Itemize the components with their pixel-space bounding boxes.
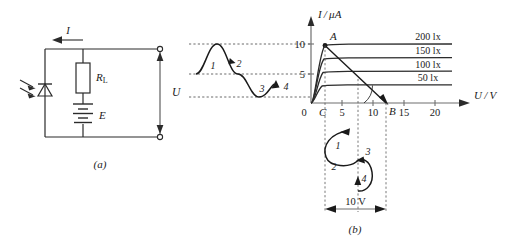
projection-lines	[325, 46, 386, 213]
x-axis-label: U / V	[474, 89, 497, 101]
curve-label-50lx: 50 lx	[418, 72, 438, 83]
input-wave-label-2: 2	[237, 58, 242, 69]
x-axis-arrowhead	[459, 99, 470, 107]
curve-label-150lx: 150 lx	[415, 45, 440, 56]
figure-photodiode-circuit-and-characteristics: I RL E	[0, 0, 505, 243]
caption-panel-b: (b)	[349, 223, 362, 236]
curve-label-100lx: 100 lx	[415, 59, 440, 70]
load-resistor-label: RL	[95, 71, 108, 85]
current-arrow-icon	[52, 36, 83, 44]
battery-label: E	[98, 109, 106, 121]
load-line	[325, 46, 389, 106]
y-tick-label-10: 10	[295, 39, 306, 50]
load-resistor-icon	[76, 63, 90, 93]
x-tick-label-10: 10	[368, 107, 379, 118]
terminal-bottom	[157, 134, 162, 139]
point-b-label: B	[389, 105, 396, 117]
point-a-label: A	[329, 30, 337, 42]
output-wave-label-1: 1	[336, 140, 341, 151]
battery-icon	[73, 104, 93, 123]
y-axis-arrowhead	[308, 16, 315, 26]
photodiode-icon	[20, 80, 52, 99]
panel-a-circuit: I RL E	[20, 25, 181, 171]
y-tick-label-5: 5	[300, 69, 305, 80]
point-c-label: C	[319, 106, 327, 118]
curve-50lx	[311, 85, 452, 103]
x-tick-label-15: 15	[399, 107, 410, 118]
input-sine-wave	[196, 44, 280, 97]
terminal-top	[157, 46, 162, 51]
current-label: I	[65, 25, 70, 36]
output-voltage-label: U	[172, 86, 181, 98]
x-tick-label-5: 5	[339, 107, 344, 118]
x-tick-label-20: 20	[430, 107, 441, 118]
output-wave-label-3: 3	[365, 146, 371, 157]
panel-b-characteristics: 1 2 3 4 I / μA U / V 5 10 0 5 10 15 2	[189, 8, 497, 236]
caption-panel-a: (a)	[94, 158, 107, 171]
swing-dimension-label: 10 V	[345, 196, 366, 207]
y-axis-label: I / μA	[317, 8, 342, 20]
output-wave-label-2: 2	[332, 161, 337, 172]
input-wave-label-3: 3	[259, 83, 265, 94]
input-wave-label-4: 4	[284, 81, 289, 92]
output-voltage-arrow-icon	[157, 52, 164, 134]
curve-label-200lx: 200 lx	[415, 31, 440, 42]
x-tick-label-0: 0	[301, 107, 306, 118]
output-wave-label-4: 4	[362, 173, 367, 184]
input-wave-label-1: 1	[211, 60, 216, 71]
